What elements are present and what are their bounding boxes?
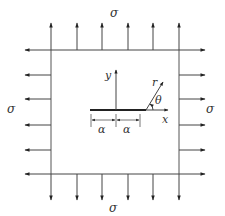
sigma-bottom-label: σ <box>109 201 118 215</box>
sigma-top-label: σ <box>110 6 119 20</box>
r-label: r <box>152 76 158 89</box>
x-axis-label: x <box>162 113 169 126</box>
plate-box <box>51 50 179 174</box>
left-stress-arrows <box>25 75 51 150</box>
theta-arc <box>150 104 153 110</box>
theta-label: θ <box>155 94 162 107</box>
sigma-right-label: σ <box>206 102 215 116</box>
right-stress-arrows <box>179 75 205 150</box>
top-stress-arrows <box>51 23 179 50</box>
y-axis-label: y <box>104 69 112 82</box>
sigma-left-label: σ <box>7 102 16 116</box>
crack-plate-diagram: σ σ σ σ y x r θ α α <box>0 0 225 216</box>
half-crack-left-label: α <box>98 123 106 136</box>
bottom-stress-arrows <box>51 174 179 200</box>
half-crack-right-label: α <box>123 123 131 136</box>
